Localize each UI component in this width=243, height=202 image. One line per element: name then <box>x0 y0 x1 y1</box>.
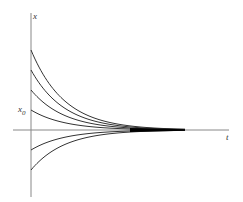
x-axis-label: t <box>226 133 229 142</box>
x0-tick-label: x0 <box>18 105 26 117</box>
solution-curve <box>31 110 185 130</box>
solution-curve <box>31 130 185 150</box>
solution-curve <box>31 50 185 129</box>
curve-group <box>31 50 185 170</box>
y-axis-label: x <box>33 12 37 21</box>
solution-curve <box>31 130 185 170</box>
solution-curves-chart <box>0 0 243 202</box>
x0-sub: 0 <box>22 109 26 117</box>
